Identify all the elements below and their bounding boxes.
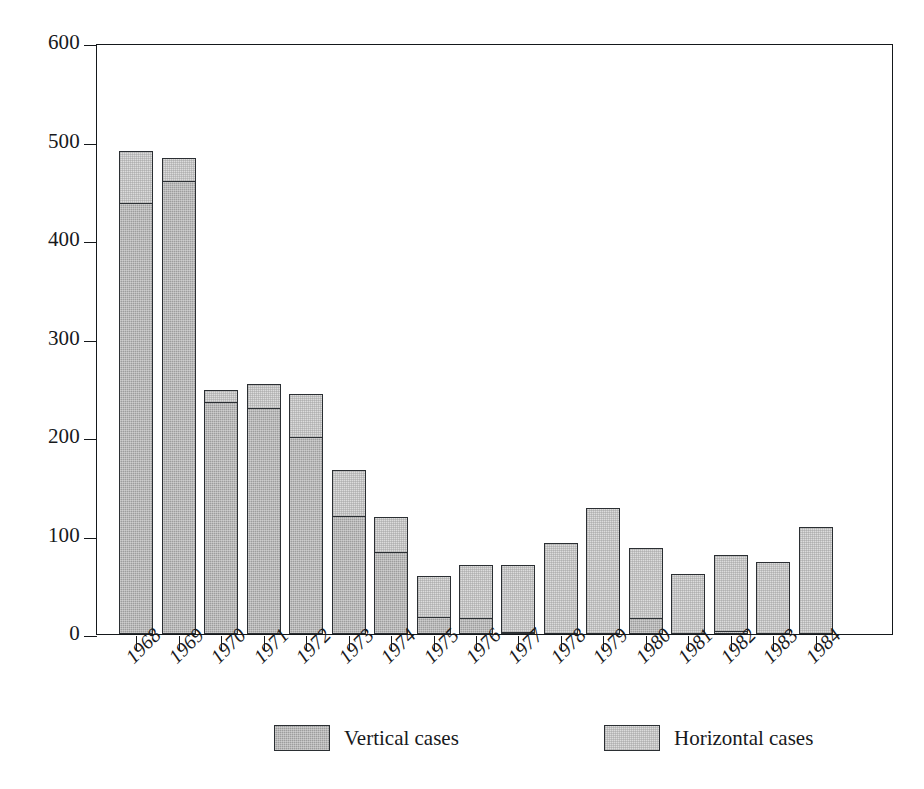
bar-1977 <box>501 43 535 634</box>
bar-1979 <box>586 43 620 634</box>
bar-segment-horizontal-cases <box>374 517 408 552</box>
bar-segment-horizontal-cases <box>247 384 281 409</box>
bar-segment-vertical-cases <box>247 407 281 634</box>
y-axis-tick <box>84 341 97 342</box>
bar-1976 <box>459 43 493 634</box>
bar-segment-horizontal-cases <box>501 565 535 633</box>
bar-segment-horizontal-cases <box>629 548 663 619</box>
y-axis-tick <box>84 636 97 637</box>
y-axis-tick-label: 0 <box>0 623 80 644</box>
legend-entry-vertical-cases: Vertical cases <box>274 723 459 753</box>
y-axis-tick <box>84 538 97 539</box>
bar-1968 <box>119 43 153 634</box>
y-axis-tick-label: 200 <box>0 426 80 447</box>
y-axis-tick-label: 300 <box>0 328 80 349</box>
y-axis-tick-label: 400 <box>0 229 80 250</box>
bar-1978 <box>544 43 578 634</box>
bar-1969 <box>162 43 196 634</box>
bar-segment-horizontal-cases <box>799 527 833 634</box>
bar-segment-vertical-cases <box>204 402 238 634</box>
bar-segment-horizontal-cases <box>544 543 578 634</box>
bar-segment-horizontal-cases <box>119 151 153 204</box>
bar-1972 <box>289 43 323 634</box>
legend-swatch-horizontal-cases <box>604 725 660 751</box>
y-axis-tick <box>84 144 97 145</box>
bar-1981 <box>671 43 705 634</box>
bar-segment-horizontal-cases <box>714 555 748 632</box>
y-axis-tick-label: 500 <box>0 131 80 152</box>
bar-segment-horizontal-cases <box>332 470 366 517</box>
y-axis-tick <box>84 242 97 243</box>
bar-1970 <box>204 43 238 634</box>
bar-segment-horizontal-cases <box>459 565 493 619</box>
bar-segment-vertical-cases <box>289 436 323 634</box>
bar-1971 <box>247 43 281 634</box>
bar-segment-horizontal-cases <box>204 390 238 403</box>
caption-sliver <box>44 777 374 789</box>
legend-label: Horizontal cases <box>674 726 813 751</box>
legend-label: Vertical cases <box>344 726 459 751</box>
bar-segment-vertical-cases <box>162 181 196 634</box>
bar-segment-vertical-cases <box>119 203 153 634</box>
bar-1982 <box>714 43 748 634</box>
bar-1984 <box>799 43 833 634</box>
bar-segment-horizontal-cases <box>289 394 323 437</box>
y-axis-tick <box>84 45 97 46</box>
legend-entry-horizontal-cases: Horizontal cases <box>604 723 813 753</box>
legend-swatch-vertical-cases <box>274 725 330 751</box>
figure-container: 0100200300400500600 19681969197019711972… <box>0 0 924 789</box>
bar-1975 <box>417 43 451 634</box>
bar-1983 <box>756 43 790 634</box>
chart-legend: Vertical casesHorizontal cases <box>96 723 893 763</box>
y-axis-tick-label: 100 <box>0 525 80 546</box>
y-axis-tick-label: 600 <box>0 32 80 53</box>
bar-1973 <box>332 43 366 634</box>
bar-1980 <box>629 43 663 634</box>
bar-segment-horizontal-cases <box>162 158 196 183</box>
bar-segment-vertical-cases <box>332 516 366 634</box>
bar-segment-horizontal-cases <box>417 576 451 617</box>
bar-1974 <box>374 43 408 634</box>
y-axis-tick <box>84 439 97 440</box>
bar-segment-vertical-cases <box>374 551 408 634</box>
bar-segment-horizontal-cases <box>586 508 620 634</box>
plot-area <box>96 44 893 635</box>
